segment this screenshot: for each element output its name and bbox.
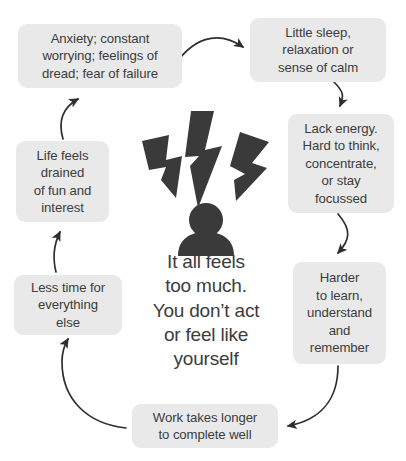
stress-cycle-diagram: Anxiety; constant worrying; feelings of …: [0, 0, 406, 461]
node-anxiety: Anxiety; constant worrying; feelings of …: [18, 24, 182, 88]
arrow-work-to-lesstime: [62, 339, 126, 428]
node-lesstime: Less time for everything else: [14, 275, 122, 335]
node-sleep: Little sleep, relaxation or sense of cal…: [250, 18, 386, 82]
arrow-learn-to-work: [288, 366, 338, 426]
arrow-lesstime-to-lifefeels: [54, 232, 60, 272]
node-learn: Harder to learn, understand and remember: [293, 262, 386, 364]
node-energy: Lack energy. Hard to think, concentrate,…: [288, 114, 394, 213]
arrow-energy-to-learn: [338, 214, 348, 253]
center-summary-text: It all feels too much. You don’t act or …: [122, 250, 290, 372]
node-lifefeels: Life feels drained of fun and interest: [16, 141, 109, 222]
arrow-lifefeels-to-anxiety: [61, 99, 78, 139]
arrow-sleep-to-energy: [334, 82, 342, 106]
node-work: Work takes longer to complete well: [132, 404, 278, 448]
stressed-person-lightning-icon: [136, 108, 276, 256]
